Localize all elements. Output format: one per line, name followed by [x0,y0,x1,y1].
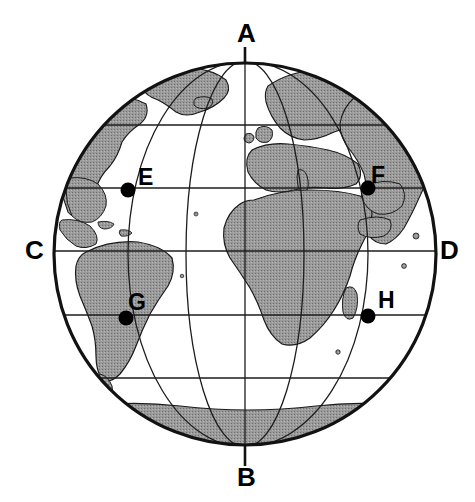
globe-illustration [0,0,475,502]
point-label-G: G [128,291,146,314]
cardinal-label-B: B [237,464,256,490]
british-isles-landmass [256,126,273,142]
island-speck-c [194,212,198,216]
point-label-H: H [378,289,395,312]
island-speck-b [402,264,407,269]
point-label-E: E [138,166,153,189]
island-speck-d [180,274,184,278]
island-speck-a [413,233,419,239]
cardinal-label-A: A [237,20,256,46]
island-speck-e [336,350,340,354]
madagascar-landmass [342,287,357,319]
cardinal-label-D: D [440,237,459,263]
point-marker-E[interactable] [121,183,136,198]
horn-of-africa-landmass [358,217,391,238]
cardinal-label-C: C [25,237,44,263]
globe-figure: A B C D E F G H [0,0,475,502]
point-marker-H[interactable] [361,309,376,324]
point-label-F: F [371,164,385,187]
